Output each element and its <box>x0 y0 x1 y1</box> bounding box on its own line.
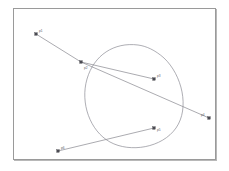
vertex-label-v5: p5 <box>157 128 161 132</box>
vertex-label-v2: p2 <box>84 66 88 70</box>
series-closed-loop-curve <box>85 45 183 148</box>
vertex-label-v6: p6 <box>61 146 65 150</box>
vertex-label-v3: p3 <box>157 74 161 78</box>
vertex-label-v1: p1 <box>39 29 43 33</box>
vertex-marker-v2[interactable] <box>80 61 83 64</box>
vertex-markers-group <box>35 33 211 153</box>
vertex-labels-group: p1p2p3p4p5p6 <box>39 29 205 150</box>
curves-group <box>36 34 209 151</box>
plot-canvas-frame: p1p2p3p4p5p6 <box>13 8 216 160</box>
figure-root: p1p2p3p4p5p6 <box>0 0 229 171</box>
vertex-marker-v4[interactable] <box>208 117 211 120</box>
vertex-marker-v5[interactable] <box>153 127 156 130</box>
vertex-marker-v6[interactable] <box>57 150 60 153</box>
vertex-marker-v3[interactable] <box>153 78 156 81</box>
curve-plot-svg: p1p2p3p4p5p6 <box>14 9 217 161</box>
vertex-marker-v1[interactable] <box>35 33 38 36</box>
series-upper-chord <box>81 62 154 79</box>
vertex-label-v4: p4 <box>201 113 205 117</box>
